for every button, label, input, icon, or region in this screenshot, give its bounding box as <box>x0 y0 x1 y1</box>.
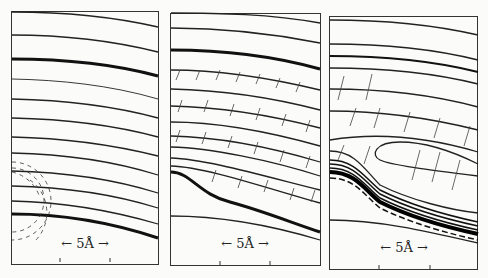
panel-c: ← 5Å → <box>320 0 488 278</box>
scale-label: ← 5Å → <box>380 240 428 255</box>
panel-b: ← 5Å → <box>160 0 325 278</box>
scale-label: ← 5Å → <box>61 236 109 251</box>
panel-a: ← 5Å → <box>0 0 165 278</box>
scale-label: ← 5Å → <box>221 236 269 251</box>
